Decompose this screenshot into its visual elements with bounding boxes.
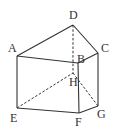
vertex-label-a: A [8,41,17,55]
vertex-label-d: D [69,8,78,22]
vertex-label-h: H [69,75,78,89]
vertex-label-c: C [101,41,109,55]
edge-fg [79,106,98,113]
edge-bf [78,63,79,113]
edge-ad [17,25,73,56]
edge-eh [17,73,73,108]
edge-dc [73,25,98,53]
edge-ef [17,108,79,113]
prism-edges [17,25,98,113]
vertex-label-e: E [10,111,17,125]
vertex-label-f: F [75,115,82,129]
edge-ab [17,56,78,63]
vertex-label-g: G [97,107,106,121]
triangular-prism-diagram: A B C D E F G H [0,0,116,130]
vertex-label-b: B [77,52,85,66]
